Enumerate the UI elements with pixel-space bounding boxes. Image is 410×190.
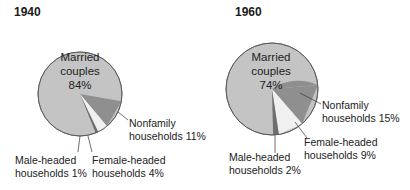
label-married-1960: Married couples 74% xyxy=(245,50,297,92)
leader-nonfamily-1940 xyxy=(118,112,128,120)
leader-male-1940 xyxy=(78,136,80,152)
label-female-1940: Female-headed households 4% xyxy=(92,154,166,180)
chart-1940: 1940 Married couples 84% Nonfamily house… xyxy=(0,0,205,190)
label-male-1960: Male-headed households 2% xyxy=(229,151,301,177)
label-female-1960: Female-headed households 9% xyxy=(304,136,378,162)
label-nonfamily-1940: Nonfamily households 11% xyxy=(129,117,206,143)
label-nonfamily-1960: Nonfamily households 15% xyxy=(322,99,400,125)
chart-1960: 1960 Married couples 74% Nonfamily house… xyxy=(205,0,410,190)
label-married-1940: Married couples 84% xyxy=(55,50,105,92)
leader-female-1940 xyxy=(88,136,92,152)
label-male-1940: Male-headed households 1% xyxy=(15,154,87,180)
